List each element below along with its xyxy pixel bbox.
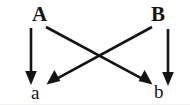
node-label-A: A	[32, 4, 47, 25]
edge-A-to-a	[25, 28, 37, 85]
edge-B-to-a-arrowhead	[47, 70, 61, 84]
diagram-canvas: A B a b	[0, 0, 190, 105]
node-label-b: b	[154, 82, 164, 101]
edge-A-to-b-shaft	[46, 27, 143, 79]
edge-A-to-b-arrowhead	[139, 70, 153, 84]
edge-B-to-b-arrowhead	[162, 72, 174, 86]
edge-B-to-b	[162, 29, 174, 86]
edge-B-to-a-shaft	[56, 27, 152, 79]
node-label-B: B	[151, 4, 165, 25]
node-label-a: a	[31, 83, 39, 102]
bottom-edge-line	[0, 104, 190, 105]
